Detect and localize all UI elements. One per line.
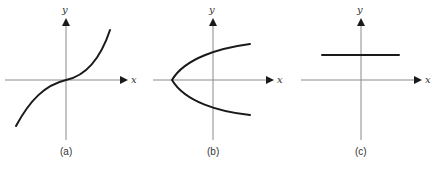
x-axis-label-a: x — [131, 74, 137, 85]
curve-a — [16, 30, 110, 126]
caption-a: (a) — [60, 146, 72, 157]
panel-b: x y (b) — [153, 4, 283, 157]
panel-a: x y (a) — [5, 4, 137, 157]
y-axis-label-b: y — [208, 4, 215, 15]
caption-b: (b) — [207, 146, 219, 157]
figure-canvas: x y (a) x y (b) x y (c) — [0, 0, 432, 171]
x-axis-label-c: x — [425, 74, 431, 85]
panel-c: x y (c) — [301, 4, 431, 157]
y-axis-label-c: y — [356, 4, 363, 15]
x-axis-label-b: x — [277, 74, 283, 85]
caption-c: (c) — [355, 146, 367, 157]
y-axis-label-a: y — [61, 4, 68, 15]
